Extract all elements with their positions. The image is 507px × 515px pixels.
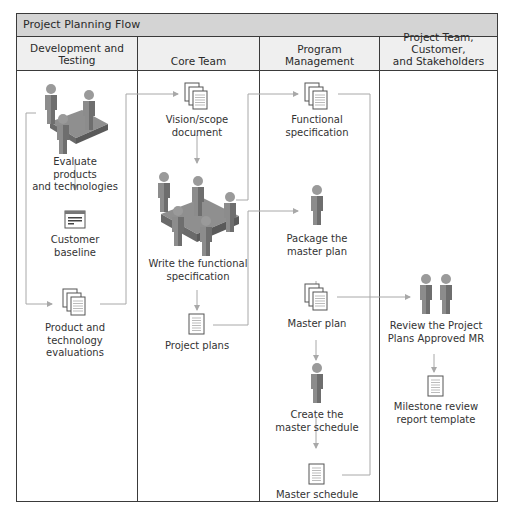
document-stack-icon	[62, 288, 88, 318]
lane-header: Core Team	[138, 37, 259, 71]
node-package-master-plan[interactable]: Package the master plan	[272, 185, 362, 258]
node-review-project-plans[interactable]: Review the Project Plans Approved MR	[380, 274, 492, 345]
document-icon	[308, 463, 326, 486]
lane-header: Program Management	[260, 37, 379, 71]
node-create-master-schedule[interactable]: Create the master schedule	[272, 363, 362, 434]
document-stack-icon	[304, 283, 330, 313]
node-functional-specification[interactable]: Functional specification	[272, 82, 362, 139]
person-icon	[308, 363, 326, 405]
document-stack-icon	[184, 82, 210, 112]
node-master-schedule[interactable]: Master schedule	[268, 463, 366, 502]
person-icon	[308, 185, 326, 227]
node-vision-scope-document[interactable]: Vision/scope document	[152, 82, 242, 139]
lane-stakeholders: Project Team, Customer, and Stakeholders	[379, 37, 497, 501]
node-evaluate-products[interactable]: Evaluate products and technologies	[30, 84, 120, 194]
node-master-plan[interactable]: Master plan	[272, 283, 362, 331]
document-stack-icon	[304, 82, 330, 112]
lane-header: Development and Testing	[17, 37, 137, 71]
team-meeting-icon	[153, 172, 243, 258]
node-project-plans[interactable]: Project plans	[152, 313, 242, 353]
document-icon	[427, 375, 445, 398]
node-product-technology-evaluations[interactable]: Product and technology evaluations	[30, 288, 120, 360]
document-icon	[188, 313, 206, 336]
node-customer-baseline[interactable]: Customer baseline	[40, 210, 110, 259]
two-people-icon	[415, 274, 457, 316]
team-meeting-icon	[40, 84, 110, 156]
lane-header: Project Team, Customer, and Stakeholders	[380, 37, 497, 71]
node-write-functional-spec[interactable]: Write the functional specification	[140, 172, 256, 283]
form-window-icon	[64, 210, 86, 230]
node-milestone-review-template[interactable]: Milestone review report template	[380, 375, 492, 426]
